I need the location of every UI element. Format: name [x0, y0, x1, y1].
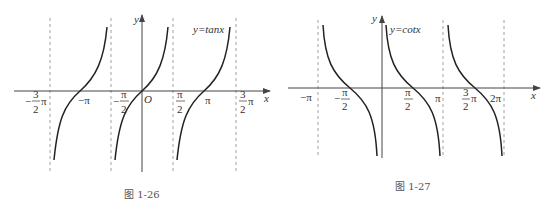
svg-text:2: 2: [463, 100, 469, 112]
cot-y-label: y: [371, 12, 377, 24]
tan-branch-3: [177, 27, 230, 160]
tan-x-label: x: [263, 92, 269, 104]
cot-tick-neg-half-pi: − π 2: [334, 86, 350, 112]
svg-text:π: π: [121, 88, 127, 100]
tan-origin-label: O: [144, 93, 152, 105]
cot-x-label: x: [530, 89, 536, 101]
svg-text:π: π: [471, 92, 477, 104]
cot-curves: [323, 25, 502, 156]
svg-text:π: π: [342, 86, 348, 98]
cot-branch-2: [386, 25, 440, 156]
cot-tick-two-pi: 2π: [490, 92, 502, 104]
svg-text:−: −: [25, 95, 31, 107]
svg-text:2: 2: [342, 100, 348, 112]
cot-tick-half-pi: π 2: [404, 86, 413, 112]
svg-text:−: −: [113, 95, 119, 107]
tan-caption: 图 1-26: [124, 189, 160, 200]
tan-tick-neg-pi: −π: [78, 94, 90, 106]
cot-tick-three-half-pi: 3 2 π: [462, 86, 477, 112]
cot-chart: y x y=cotx −π − π 2 π 2 π 3 2 π 2π 图 1-2…: [288, 12, 540, 192]
svg-text:2: 2: [405, 100, 411, 112]
cot-branch-1: [323, 25, 377, 156]
tan-chart: y x y=tanx O − 3 2 π −π − π 2 π 2 π 3: [14, 13, 270, 200]
cot-function-label: y=cotx: [389, 23, 421, 35]
svg-text:π: π: [177, 88, 183, 100]
svg-text:3: 3: [463, 86, 469, 98]
tan-tick-pi: π: [205, 94, 211, 106]
svg-text:2: 2: [177, 103, 183, 115]
svg-text:2: 2: [33, 103, 39, 115]
svg-text:3: 3: [240, 88, 246, 100]
svg-text:2: 2: [121, 103, 127, 115]
tan-function-label: y=tanx: [192, 23, 224, 35]
svg-text:π: π: [41, 95, 47, 107]
cot-tick-neg-pi: −π: [300, 91, 312, 103]
tan-tick-neg-three-half-pi: − 3 2 π: [25, 88, 47, 115]
tan-tick-half-pi: π 2: [176, 88, 185, 115]
trig-figures: y x y=tanx O − 3 2 π −π − π 2 π 2 π 3: [0, 0, 549, 208]
svg-text:−: −: [334, 92, 340, 104]
cot-caption: 图 1-27: [395, 181, 431, 192]
svg-text:3: 3: [33, 88, 39, 100]
svg-text:π: π: [405, 86, 411, 98]
tan-tick-three-half-pi: 3 2 π: [239, 88, 254, 115]
svg-text:π: π: [248, 95, 254, 107]
tan-y-label: y: [133, 13, 139, 25]
cot-tick-pi: π: [435, 92, 441, 104]
svg-text:2: 2: [240, 103, 246, 115]
cot-branch-3: [448, 25, 502, 156]
